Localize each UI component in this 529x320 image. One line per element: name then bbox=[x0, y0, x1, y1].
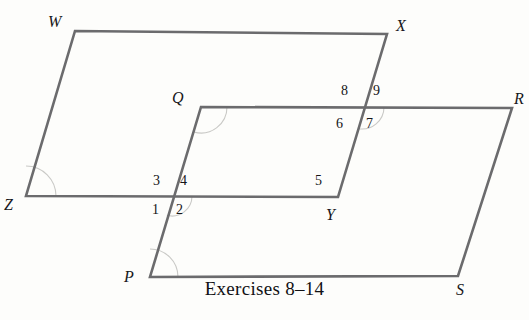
figure-caption: Exercises 8–14 bbox=[0, 278, 529, 300]
angle-2: 2 bbox=[176, 203, 183, 217]
label-x: X bbox=[396, 18, 406, 34]
angle-9: 9 bbox=[373, 84, 380, 98]
label-z: Z bbox=[4, 197, 13, 213]
figure-canvas bbox=[0, 0, 529, 320]
angle-6: 6 bbox=[336, 117, 343, 131]
angle-1: 1 bbox=[152, 203, 159, 217]
angle-5: 5 bbox=[315, 174, 322, 188]
geometry-figure-root: WXQRZYPS 896734512 Exercises 8–14 bbox=[0, 0, 529, 320]
label-y: Y bbox=[326, 207, 335, 223]
parallelogram-layer bbox=[26, 31, 512, 277]
angle-3: 3 bbox=[153, 174, 160, 188]
angle-4: 4 bbox=[180, 174, 187, 188]
parallelogram-wxyz bbox=[26, 31, 387, 197]
angle-8: 8 bbox=[341, 84, 348, 98]
label-q: Q bbox=[172, 90, 184, 106]
label-r: R bbox=[514, 91, 524, 107]
label-w: W bbox=[48, 14, 61, 30]
angle-7: 7 bbox=[366, 117, 373, 131]
angle-arc-layer bbox=[26, 107, 384, 277]
